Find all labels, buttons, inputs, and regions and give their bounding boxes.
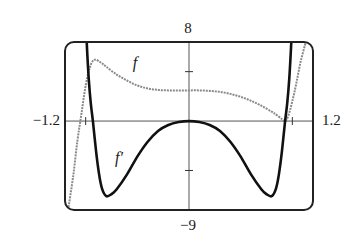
curve-label-f-prime: f′ [115,149,123,167]
y-max-label: 8 [184,20,192,36]
y-min-label: −9 [180,217,196,233]
curve-label-f: f [133,54,140,72]
x-min-label: −1.2 [33,112,60,128]
curve-f [68,42,306,210]
x-max-label: 1.2 [322,112,341,128]
graph-window: 8 −9 −1.2 1.2 f f′ [0,0,361,236]
axes [66,43,312,209]
